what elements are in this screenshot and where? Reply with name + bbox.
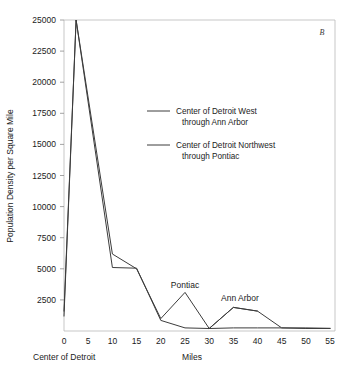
x-tick-label-0: 0 bbox=[62, 336, 67, 346]
y-tick-label-20000: 20000 bbox=[32, 77, 56, 87]
annotation-ann-arbor: Ann Arbor bbox=[221, 293, 259, 303]
legend-label-2-line1: Center of Detroit Northwest bbox=[176, 141, 276, 150]
y-tick-label-15000: 15000 bbox=[32, 139, 56, 149]
y-tick-label-12500: 12500 bbox=[32, 171, 56, 181]
y-tick-label-7500: 7500 bbox=[37, 233, 56, 243]
x-tick-label-35: 35 bbox=[229, 336, 239, 346]
y-axis-title: Population Density per Square Mile bbox=[5, 109, 15, 243]
x-axis-origin-label: Center of Detroit bbox=[33, 352, 96, 362]
x-tick-label-40: 40 bbox=[253, 336, 263, 346]
x-tick-label-5: 5 bbox=[86, 336, 91, 346]
plot-frame bbox=[64, 20, 335, 331]
x-tick-label-10: 10 bbox=[108, 336, 118, 346]
legend-label-1-line2: through Ann Arbor bbox=[182, 118, 248, 127]
y-tick-label-17500: 17500 bbox=[32, 108, 56, 118]
chart-legend: Center of Detroit West through Ann Arbor… bbox=[147, 107, 276, 161]
x-axis-tick-labels: 0 5 10 15 20 25 30 35 40 45 50 55 bbox=[62, 336, 335, 346]
x-tick-label-20: 20 bbox=[156, 336, 166, 346]
chart-figure: 25000 22500 20000 17500 15000 12500 1000… bbox=[0, 0, 348, 375]
x-tick-label-25: 25 bbox=[180, 336, 190, 346]
y-tick-label-5000: 5000 bbox=[37, 264, 56, 274]
y-tick-label-2500: 2500 bbox=[37, 295, 56, 305]
x-axis-title: Miles bbox=[182, 352, 202, 362]
panel-letter: B bbox=[320, 28, 325, 37]
y-tick-label-25000: 25000 bbox=[32, 15, 56, 25]
population-density-line-chart: 25000 22500 20000 17500 15000 12500 1000… bbox=[0, 0, 348, 375]
x-tick-label-15: 15 bbox=[132, 336, 142, 346]
x-tick-label-45: 45 bbox=[277, 336, 287, 346]
series-line-ann-arbor-tail bbox=[209, 307, 330, 328]
x-tick-label-50: 50 bbox=[301, 336, 311, 346]
y-tick-label-10000: 10000 bbox=[32, 202, 56, 212]
legend-label-2-line2: through Pontiac bbox=[182, 152, 239, 161]
annotation-pontiac: Pontiac bbox=[171, 280, 200, 290]
x-tick-label-55: 55 bbox=[325, 336, 335, 346]
y-axis-ticks bbox=[60, 20, 64, 300]
y-axis-tick-labels: 25000 22500 20000 17500 15000 12500 1000… bbox=[32, 15, 56, 305]
series-line-detroit-northwest-pontiac bbox=[64, 20, 258, 329]
legend-label-1-line1: Center of Detroit West bbox=[176, 107, 258, 116]
y-tick-label-22500: 22500 bbox=[32, 46, 56, 56]
x-tick-label-30: 30 bbox=[204, 336, 214, 346]
